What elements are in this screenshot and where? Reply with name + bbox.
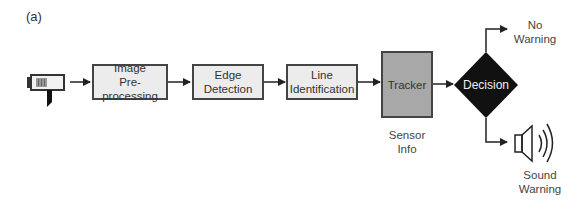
- caption-line: Warning: [510, 32, 560, 46]
- box-label: Line: [290, 68, 355, 82]
- connector-lines: [0, 0, 584, 205]
- decision-label: Decision: [454, 78, 518, 92]
- box-label: Identification: [290, 82, 355, 96]
- video-camera-icon: [27, 75, 64, 107]
- image-preprocessing-box: Image Pre-processing: [92, 64, 168, 100]
- box-label: Pre-processing: [94, 75, 166, 103]
- sensor-info-caption: Sensor Info: [381, 128, 433, 156]
- box-label: Detection: [204, 82, 253, 96]
- caption-line: Warning: [514, 182, 566, 196]
- tracker-box: Tracker: [381, 51, 433, 118]
- caption-line: Sound: [514, 168, 566, 182]
- no-warning-label: No Warning: [510, 18, 560, 46]
- speaker-icon: [515, 124, 553, 162]
- caption-line: Info: [381, 142, 433, 156]
- caption-line: No: [510, 18, 560, 32]
- box-label: Edge: [204, 68, 253, 82]
- edge-detection-box: Edge Detection: [192, 64, 264, 100]
- caption-line: Sensor: [381, 128, 433, 142]
- box-label: Tracker: [388, 78, 427, 92]
- box-label: Image: [94, 61, 166, 75]
- line-identification-box: Line Identification: [286, 64, 358, 100]
- sound-warning-label: Sound Warning: [514, 168, 566, 196]
